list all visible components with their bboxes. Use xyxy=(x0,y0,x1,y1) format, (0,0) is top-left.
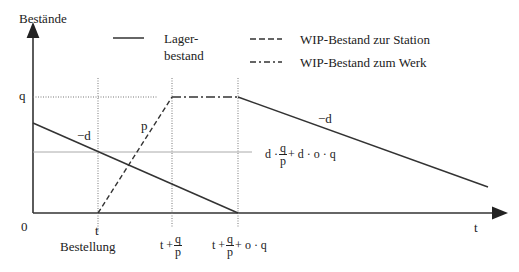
slope-wip-rise: p xyxy=(141,119,148,132)
q-tick-label: q xyxy=(19,89,26,102)
x-axis-label: t xyxy=(474,221,478,234)
origin-label: 0 xyxy=(21,220,28,233)
t-q-p-oq-tick-label: t + qp + o · q xyxy=(212,233,267,258)
slope-lager-right: −d xyxy=(318,112,332,125)
legend-wip-station-label: WIP-Bestand zur Station xyxy=(300,33,430,46)
legend-wip-werk-label: WIP-Bestand zum Werk xyxy=(300,56,427,69)
legend-lager-label-2: bestand xyxy=(164,49,204,62)
slope-lager-left: −d xyxy=(77,129,91,142)
t-tick-label: t xyxy=(95,224,99,237)
legend-lager-label-1: Lager- xyxy=(164,32,198,45)
y-axis-label: Bestände xyxy=(19,12,67,25)
level-expression: d · qp + d · o · q xyxy=(265,142,336,167)
wip-station-line xyxy=(98,97,172,213)
lager-line-left xyxy=(33,123,238,213)
bestellung-label: Bestellung xyxy=(60,240,116,253)
t-q-p-tick-label: t + qp xyxy=(160,233,183,258)
